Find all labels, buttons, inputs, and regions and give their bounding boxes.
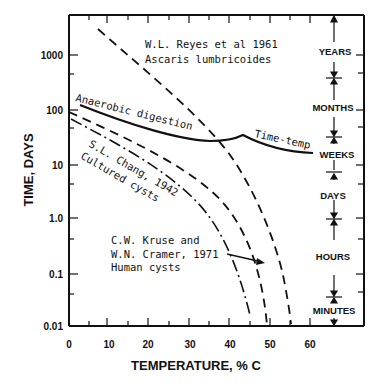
x-tick-labels: 0 10 20 30 40 50 60 xyxy=(66,339,316,350)
svg-text:WEEKS: WEEKS xyxy=(320,149,355,160)
reyes-label-line2: Ascaris lumbricoides xyxy=(145,53,271,65)
temperature-time-chart: 0 10 20 30 40 50 60 0.01 0.1 1.0 10 100 … xyxy=(0,0,379,384)
time-temp-label: Time-temp xyxy=(254,127,312,151)
svg-text:0.1: 0.1 xyxy=(49,269,63,280)
svg-text:10: 10 xyxy=(103,339,115,350)
kruse-label-line2: W.N. Cramer, 1971 xyxy=(111,248,218,260)
svg-text:MINUTES: MINUTES xyxy=(313,305,356,316)
x-axis-title: TEMPERATURE, % C xyxy=(131,358,261,373)
y-tick-labels: 0.01 0.1 1.0 10 100 1000 xyxy=(41,50,64,332)
time-scale xyxy=(326,16,342,325)
svg-text:40: 40 xyxy=(224,339,236,350)
svg-text:30: 30 xyxy=(184,339,196,350)
svg-text:DAYS: DAYS xyxy=(320,190,346,201)
svg-text:50: 50 xyxy=(264,339,276,350)
kruse-arrowhead xyxy=(256,258,265,265)
kruse-label-line1: C.W. Kruse and xyxy=(111,234,200,246)
svg-text:HOURS: HOURS xyxy=(316,251,350,262)
svg-text:MONTHS: MONTHS xyxy=(312,102,353,113)
svg-text:1.0: 1.0 xyxy=(49,213,63,224)
kruse-label-line3: Human cysts xyxy=(111,261,181,273)
y-axis-title: TIME, DAYS xyxy=(21,133,36,207)
svg-text:10: 10 xyxy=(52,160,64,171)
svg-text:1000: 1000 xyxy=(41,50,64,61)
reyes-label-line1: W.L. Reyes et al 1961 xyxy=(145,38,278,50)
svg-text:60: 60 xyxy=(304,339,316,350)
svg-text:0: 0 xyxy=(66,339,72,350)
svg-text:20: 20 xyxy=(142,339,154,350)
anaerobic-label: Anaerobic digestion xyxy=(75,91,194,132)
svg-text:0.01: 0.01 xyxy=(44,321,64,332)
svg-text:100: 100 xyxy=(46,105,63,116)
svg-text:YEARS: YEARS xyxy=(319,46,352,57)
